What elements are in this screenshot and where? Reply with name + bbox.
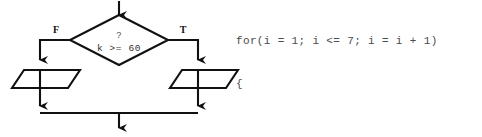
code-line-open-brace: { xyxy=(236,77,482,91)
true-branch-connector xyxy=(168,40,198,60)
code-line-blank-1 xyxy=(236,120,482,134)
flowchart-svg: ? k >= 60 F T xyxy=(0,0,240,137)
true-process-parallelogram xyxy=(170,70,238,88)
false-branch-connector xyxy=(40,40,70,60)
code-line-for: for(i = 1; i <= 7; i = i + 1) xyxy=(236,34,482,48)
flowchart-code-figure: ? k >= 60 F T for(i = 1; i <= 7; i = i +… xyxy=(0,0,482,137)
false-branch-label: F xyxy=(53,24,59,35)
decision-condition: k >= 60 xyxy=(97,43,141,54)
code-block: for(i = 1; i <= 7; i = i + 1) { scanf("%… xyxy=(236,6,482,137)
flowchart-diagram: ? k >= 60 F T xyxy=(0,0,240,137)
decision-marker: ? xyxy=(116,31,121,41)
true-branch-label: T xyxy=(180,24,187,35)
false-process-parallelogram xyxy=(12,70,80,88)
